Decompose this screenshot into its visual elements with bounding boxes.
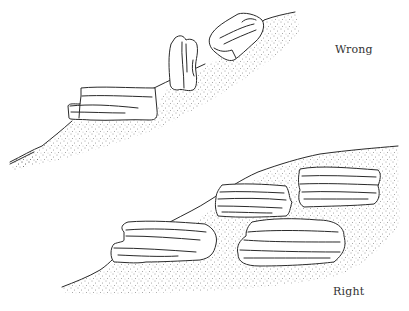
right-panel <box>10 146 400 294</box>
right-rock-lower-right <box>237 219 345 266</box>
right-rock-middle <box>215 184 292 217</box>
right-label: Right <box>333 285 364 298</box>
wrong-rock-flat <box>68 87 157 120</box>
wrong-panel <box>10 12 300 168</box>
wrong-label: Wrong <box>335 43 373 56</box>
right-rock-upper-right <box>299 167 381 207</box>
wrong-rock-upright <box>169 36 197 91</box>
right-rock-lower-left <box>111 221 217 263</box>
